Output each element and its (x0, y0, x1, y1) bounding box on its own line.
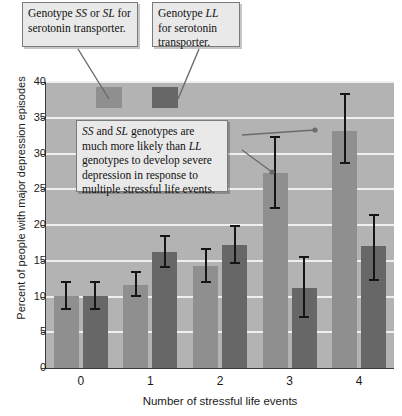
callout-text-segment: genotypes to develop severe depression i… (82, 154, 215, 195)
callout-text-segment: LL (206, 7, 219, 19)
callout-text-segment: for serotonin transporter. (158, 22, 217, 49)
callout-ll: Genotype LL for serotonin transporter. (152, 2, 240, 47)
callout-text-segment: SS (82, 125, 94, 137)
callout-text-segment: Genotype (158, 7, 206, 19)
legend-swatch-ss-sl (96, 87, 122, 108)
x-axis-title: Number of stressful life events (46, 395, 394, 407)
callout-text-segment: SL (116, 125, 128, 137)
x-axis: 01234 (0, 0, 402, 416)
callout-finding: SS and SL genotypes are much more likely… (76, 120, 228, 192)
callout-text-segment: Genotype (28, 7, 76, 19)
callout-text-segment: LL (189, 140, 202, 152)
chart-figure: 0510152025303540 Percent of people with … (0, 0, 402, 416)
callout-ss-sl: Genotype SS or SL for serotonin transpor… (22, 2, 138, 47)
x-tick-label: 4 (344, 374, 374, 388)
callout-text-segment: and (94, 125, 116, 137)
x-tick-label: 3 (275, 374, 305, 388)
callout-text-segment: SL (102, 7, 114, 19)
callout-text-segment: or (87, 7, 102, 19)
legend-swatch-ll (152, 87, 178, 108)
callout-text-segment: SS (76, 7, 88, 19)
x-tick-label: 1 (135, 374, 165, 388)
x-tick-label: 0 (66, 374, 96, 388)
x-tick-label: 2 (205, 374, 235, 388)
